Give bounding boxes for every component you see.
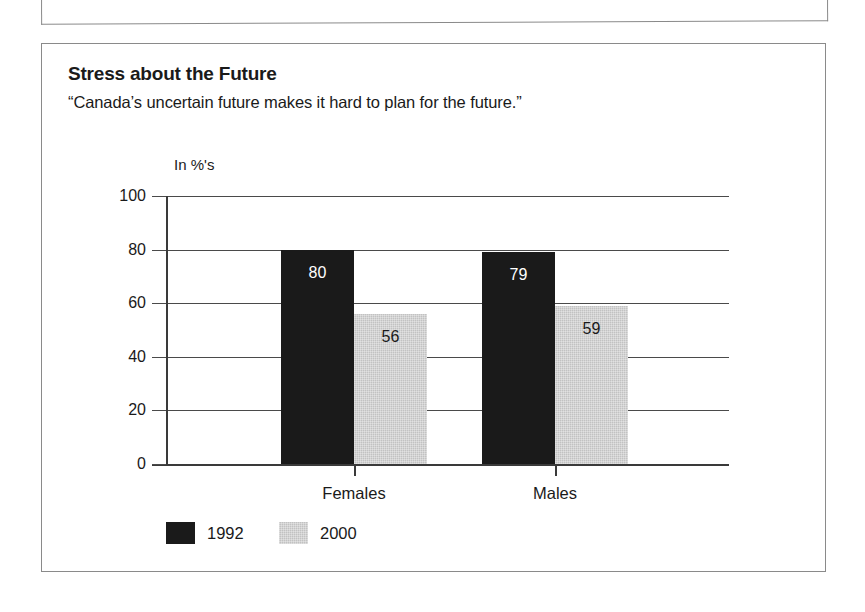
plot-area: 020406080100In %'s8056Females7959Males [42, 44, 827, 573]
legend-label-1992: 1992 [207, 524, 244, 543]
chart-legend: 19922000 [42, 522, 827, 562]
y-tick-mark-100 [152, 196, 166, 197]
y-tick-mark-0 [152, 464, 166, 465]
x-axis-category-label: Females [274, 484, 434, 503]
category-tick-males [555, 465, 557, 476]
legend-swatch-1992 [166, 522, 195, 544]
y-axis-tick-label: 100 [86, 187, 146, 205]
y-axis-tick-label: 80 [86, 241, 146, 259]
gridline-100 [152, 196, 729, 197]
y-tick-mark-60 [152, 303, 166, 304]
gridline-0 [152, 464, 729, 466]
y-axis-unit-label: In %'s [174, 156, 214, 173]
bar-value-label: 59 [555, 320, 628, 338]
y-tick-mark-80 [152, 250, 166, 251]
bar-females-1992 [281, 250, 354, 464]
gridline-40 [152, 357, 729, 358]
legend-label-2000: 2000 [320, 524, 357, 543]
gridline-80 [152, 250, 729, 251]
gridline-60 [152, 303, 729, 304]
y-tick-mark-40 [152, 357, 166, 358]
chart-panel: Stress about the Future “Canada’s uncert… [41, 43, 826, 572]
legend-swatch-2000 [279, 522, 308, 544]
y-axis-tick-label: 60 [86, 294, 146, 312]
bar-value-label: 80 [281, 264, 354, 282]
bar-value-label: 56 [354, 328, 427, 346]
y-axis-tick-label: 40 [86, 348, 146, 366]
y-axis-tick-label: 20 [86, 401, 146, 419]
x-axis-category-label: Males [475, 484, 635, 503]
category-tick-females [354, 465, 356, 476]
y-tick-mark-20 [152, 410, 166, 411]
y-axis-tick-label: 0 [86, 455, 146, 473]
gridline-20 [152, 410, 729, 411]
y-axis-line [166, 196, 168, 464]
bar-value-label: 79 [482, 266, 555, 284]
previous-panel-edge [41, 0, 828, 25]
